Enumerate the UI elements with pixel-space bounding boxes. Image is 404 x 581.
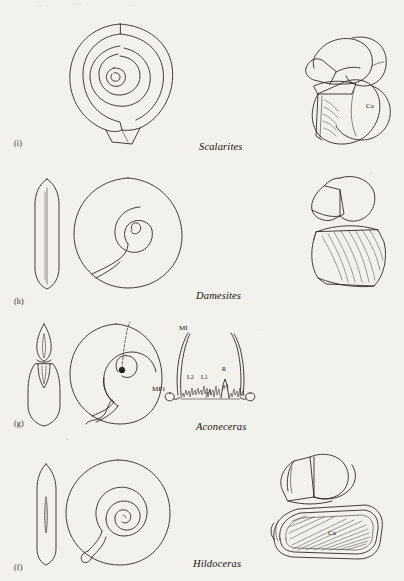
paper-speck xyxy=(260,330,261,331)
paper-speck xyxy=(370,172,372,174)
row-scalarites: Ca (i) Scalarites xyxy=(0,0,404,160)
hildoceras-cross-section xyxy=(30,461,64,567)
row-label-h: (h) xyxy=(14,297,24,306)
row-label-f: (f) xyxy=(14,563,23,572)
caption-scalarites: Scalarites xyxy=(199,141,243,152)
row-damesites: (h) Damesites xyxy=(0,160,404,320)
row-aconeceras: MI MP1 L2 L1 R (g) Aconeceras xyxy=(0,320,404,445)
caption-aconeceras: Aconeceras xyxy=(196,421,246,432)
aconeceras-shell-drawing xyxy=(66,320,166,432)
damesites-shell-drawing xyxy=(70,174,186,292)
scalarites-jaw-drawing: Ca xyxy=(292,22,396,144)
suture-label-l2: L2 xyxy=(187,374,194,380)
suture-label-r: R xyxy=(222,366,226,372)
aconeceras-suture-diagram: MI MP1 L2 L1 R xyxy=(152,323,262,413)
suture-label-mi: MI xyxy=(179,324,188,332)
suture-label-l1: L1 xyxy=(201,374,208,380)
paper-speck xyxy=(66,438,68,440)
damesites-cross-section xyxy=(28,176,68,292)
annotation-ca-scalarites: Ca xyxy=(366,102,375,110)
suture-label-mp1: MP1 xyxy=(152,385,166,393)
row-label-g: (g) xyxy=(14,419,24,428)
caption-hildoceras: Hildoceras xyxy=(193,558,241,569)
figure-plate: Ca (i) Scalarites xyxy=(0,0,404,581)
scalarites-shell-drawing xyxy=(62,18,192,136)
row-label-i: (i) xyxy=(14,139,22,148)
annotation-ca-hildoceras: Ca xyxy=(328,529,337,537)
hildoceras-shell-drawing xyxy=(62,457,174,569)
damesites-aptychus-drawing xyxy=(300,170,392,296)
hildoceras-jaw-aptychus-drawing: Ca xyxy=(262,447,392,565)
row-hildoceras: Ca (f) Hildoceras xyxy=(0,445,404,581)
aconeceras-cross-section xyxy=(22,322,66,428)
caption-damesites: Damesites xyxy=(196,290,241,301)
